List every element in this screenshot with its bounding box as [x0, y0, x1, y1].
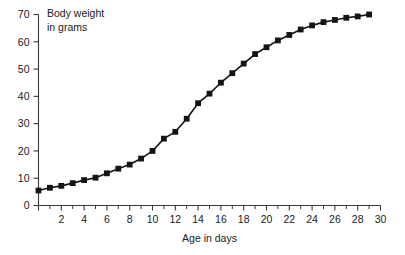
x-tick-label: 4 — [81, 213, 87, 225]
data-point-marker — [93, 175, 99, 181]
data-point-marker — [81, 177, 87, 183]
data-point-marker — [309, 23, 315, 29]
data-point-marker — [70, 180, 76, 186]
data-point-marker — [366, 12, 372, 18]
data-point-marker — [36, 188, 42, 194]
y-tick-label: 20 — [18, 145, 30, 157]
x-tick-label-group: 24681012141618202224262830 — [58, 213, 386, 225]
y-tick-label: 70 — [18, 8, 30, 20]
y-tick-label: 10 — [18, 172, 30, 184]
data-point-marker — [172, 129, 178, 135]
data-point-marker — [150, 148, 156, 154]
data-point-marker — [286, 32, 292, 38]
growth-curve-chart: Body weight in grams 010203040506070 246… — [0, 0, 405, 255]
x-tick-label: 24 — [306, 213, 318, 225]
x-tick-label: 14 — [192, 213, 204, 225]
data-point-marker — [275, 38, 281, 44]
y-tick-label: 50 — [18, 63, 30, 75]
x-tick-label: 12 — [169, 213, 181, 225]
data-point-marker — [252, 51, 258, 57]
data-point-marker — [138, 156, 144, 162]
y-tick-label-group: 010203040506070 — [18, 8, 30, 211]
x-tick-label: 20 — [261, 213, 273, 225]
x-tick-label: 16 — [215, 213, 227, 225]
data-point-marker — [332, 17, 338, 23]
data-point-marker — [104, 170, 110, 176]
x-tick-label: 2 — [58, 213, 64, 225]
data-point-marker — [127, 162, 133, 168]
y-axis-caption: Body weight in grams — [47, 7, 104, 34]
data-point-marker — [321, 19, 327, 25]
y-axis-group: 010203040506070 — [18, 8, 39, 211]
x-tick-label: 18 — [238, 213, 250, 225]
data-point-marker — [218, 80, 224, 86]
data-point-marker — [241, 61, 247, 67]
data-point-marker — [355, 14, 361, 20]
x-tick-label: 10 — [147, 213, 159, 225]
x-tick-label: 26 — [329, 213, 341, 225]
data-point-marker — [229, 70, 235, 76]
x-tick-label: 8 — [127, 213, 133, 225]
x-tick-group — [39, 206, 381, 211]
x-axis-group: 24681012141618202224262830 — [39, 206, 387, 225]
data-series-group — [36, 12, 372, 194]
x-tick-label: 30 — [375, 213, 387, 225]
data-point-marker — [343, 15, 349, 21]
y-tick-label: 40 — [18, 90, 30, 102]
y-tick-label: 0 — [24, 199, 30, 211]
y-tick-group — [34, 15, 39, 206]
data-point-marker — [47, 185, 53, 191]
data-point-marker — [161, 136, 167, 142]
data-point-marker — [264, 44, 270, 50]
data-point-marker — [115, 166, 121, 172]
y-tick-label: 30 — [18, 117, 30, 129]
chart-canvas: 010203040506070 246810121416182022242628… — [0, 0, 405, 255]
x-tick-label: 22 — [283, 213, 295, 225]
series-markers-body-weight — [36, 12, 372, 194]
y-tick-label: 60 — [18, 36, 30, 48]
x-tick-label: 6 — [104, 213, 110, 225]
data-point-marker — [184, 116, 190, 122]
data-point-marker — [58, 183, 64, 189]
data-point-marker — [207, 91, 213, 97]
x-axis-title: Age in days — [182, 232, 237, 244]
x-tick-label: 28 — [352, 213, 364, 225]
series-line-body-weight — [39, 15, 370, 191]
data-point-marker — [298, 27, 304, 33]
data-point-marker — [195, 100, 201, 106]
